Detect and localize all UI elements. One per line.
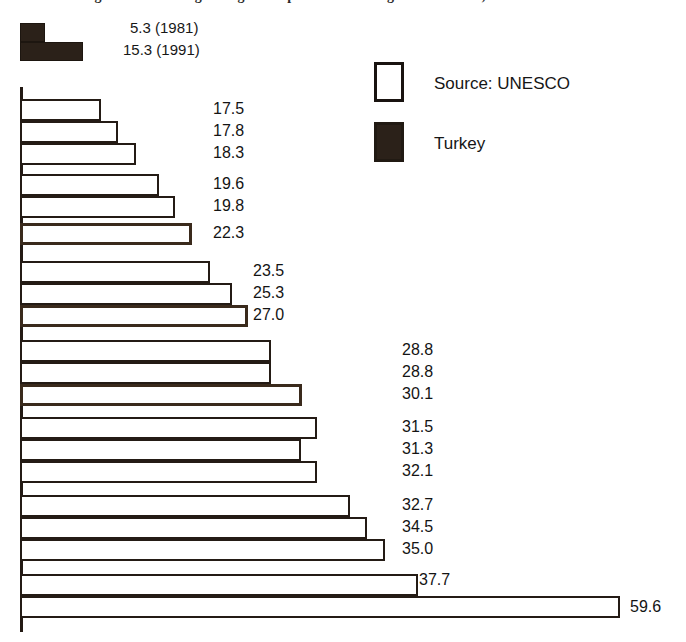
bar (20, 261, 210, 283)
bar (20, 340, 271, 362)
bar-value-label: 28.8 (402, 363, 433, 381)
bar-value-label: 19.8 (213, 197, 244, 215)
bar (20, 99, 101, 121)
bar (20, 439, 301, 461)
bar-value-label: 17.8 (213, 122, 244, 140)
bar (20, 174, 159, 196)
bar-value-label: 17.5 (213, 100, 244, 118)
bar (20, 305, 248, 327)
bar-value-label: 59.6 (630, 598, 661, 616)
bar (20, 143, 136, 165)
bar-value-label: 37.7 (419, 571, 450, 589)
bar (20, 461, 317, 483)
bar (20, 362, 271, 384)
bar-value-label: 34.5 (402, 518, 433, 536)
bar (20, 223, 192, 245)
bars-container: 17.517.818.319.619.822.323.525.327.028.8… (0, 0, 686, 642)
bar (20, 517, 367, 539)
bar (20, 596, 620, 618)
bar-value-label: 35.0 (402, 540, 433, 558)
bar (20, 196, 175, 218)
bar-value-label: 18.3 (213, 144, 244, 162)
bar (20, 121, 118, 143)
bar (20, 574, 418, 596)
bar-value-label: 32.1 (402, 462, 433, 480)
bar-value-label: 31.5 (402, 418, 433, 436)
bar (20, 417, 317, 439)
bar (20, 283, 232, 305)
bar-value-label: 28.8 (402, 341, 433, 359)
bar (20, 539, 385, 561)
bar-value-label: 27.0 (253, 306, 284, 324)
bar-value-label: 31.3 (402, 440, 433, 458)
bar-value-label: 22.3 (213, 224, 244, 242)
bar-value-label: 25.3 (253, 284, 284, 302)
bar-value-label: 30.1 (402, 385, 433, 403)
bar-value-label: 19.6 (213, 175, 244, 193)
bar-value-label: 23.5 (253, 262, 284, 280)
bar-chart: Figure 1. Percentage of Age Group Enroll… (0, 0, 686, 642)
bar (20, 495, 350, 517)
bar (20, 384, 302, 406)
bar-value-label: 32.7 (402, 496, 433, 514)
